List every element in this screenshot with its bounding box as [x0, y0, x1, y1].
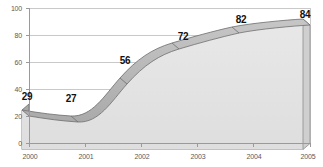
y-tick-label-80: 80: [2, 32, 22, 40]
data-label-2001: 27: [60, 93, 82, 104]
area-chart: 100 80 60 40 20 0 2000 2001 2002 2003 20…: [0, 0, 323, 167]
x-tick-label-2001: 2001: [69, 153, 103, 161]
data-label-2000: 29: [16, 91, 38, 102]
x-tick-label-2005: 2005: [291, 153, 323, 161]
y-tick-label-20: 20: [2, 113, 22, 121]
y-tick-label-0: 0: [2, 140, 22, 148]
data-label-2003: 72: [172, 31, 194, 42]
y-tick-label-60: 60: [2, 59, 22, 67]
data-label-2002: 56: [114, 55, 136, 66]
x-tick-label-2003: 2003: [181, 153, 215, 161]
data-label-2005: 84: [294, 9, 316, 20]
y-tick-label-100: 100: [2, 5, 22, 13]
chart-canvas: [0, 0, 323, 167]
x-tick-label-2000: 2000: [13, 153, 47, 161]
x-tick-label-2004: 2004: [237, 153, 271, 161]
area-right-face: [303, 19, 310, 150]
data-label-2004: 82: [230, 14, 252, 25]
x-tick-label-2002: 2002: [125, 153, 159, 161]
